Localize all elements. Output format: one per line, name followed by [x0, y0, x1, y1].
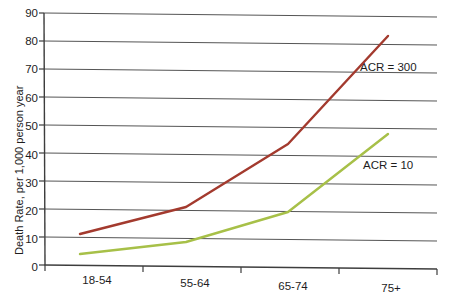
series-line-acr-300	[80, 36, 388, 234]
series-line-acr-10	[80, 134, 388, 254]
chart-plot	[0, 0, 455, 293]
chart-container: Death Rate, per 1,000 person year 90 80 …	[0, 0, 455, 293]
y-axis-ticks	[39, 13, 44, 265]
